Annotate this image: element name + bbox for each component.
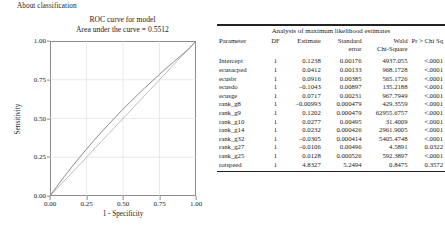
table-row: rank_g910.12020.00047962955.6757<.0001 — [217, 109, 445, 118]
cell-estimate: –0.00993 — [284, 100, 323, 109]
table-header-row-1: Parameter DF Estimate Standard Wald Pr >… — [217, 37, 445, 45]
cell-df: 1 — [267, 135, 284, 144]
cell-pr-chi-sq: <.0001 — [410, 100, 445, 109]
cell-df: 1 — [267, 57, 284, 66]
y-tick-label: 0.00 — [34, 193, 46, 200]
chart-title-block: ROC curve for model Area under the curve… — [0, 15, 215, 34]
table-row: ecusge10.07170.00231967.7949<.0001 — [217, 92, 445, 101]
cell-pr-chi-sq: <.0001 — [410, 66, 445, 75]
cell-std-error: 0.000526 — [323, 152, 364, 161]
y-tick-mark — [47, 79, 51, 80]
cell-std-error: 0.000426 — [323, 126, 364, 135]
x-tick-label: 1.00 — [190, 201, 202, 208]
x-axis-label: 1 - Specificity — [50, 210, 196, 218]
cell-df: 1 — [267, 117, 284, 126]
table-bottom-rule — [217, 171, 445, 173]
cell-wald-chi-square: 4937.055 — [364, 57, 410, 66]
table-row: rank_g1010.02770.0049531.4009<.0001 — [217, 117, 445, 126]
cell-estimate: 0.0232 — [284, 126, 323, 135]
table-row: rotspeed14.83275.24940.84750.3572 — [217, 160, 445, 169]
table-row: rank_g2510.01280.000526592.3897<.0001 — [217, 152, 445, 161]
cell-pr-chi-sq: <.0001 — [410, 126, 445, 135]
table-row: Intercept10.12380.001764937.055<.0001 — [217, 57, 445, 66]
cell-df: 1 — [267, 160, 284, 169]
cell-estimate: –0.0305 — [284, 135, 323, 144]
estimates-table: Analysis of maximum likelihood estimates… — [217, 26, 445, 171]
y-tick-mark — [47, 157, 51, 158]
column-header-wald-line2: Chi-Square — [364, 45, 410, 54]
cell-pr-chi-sq: <.0001 — [410, 109, 445, 118]
y-tick-label: 0.75 — [34, 76, 46, 83]
cell-std-error: 0.00231 — [323, 92, 364, 101]
y-tick-label: 1.00 — [34, 38, 46, 45]
table-row: ecusbr10.09160.00385565.1726<.0001 — [217, 74, 445, 83]
cell-wald-chi-square: 62955.6757 — [364, 109, 410, 118]
cell-pr-chi-sq: <.0001 — [410, 117, 445, 126]
cell-std-error: 0.000479 — [323, 109, 364, 118]
column-header-df: DF — [267, 37, 284, 45]
cell-wald-chi-square: 5405.4748 — [364, 135, 410, 144]
y-tick-label: 0.50 — [34, 115, 46, 122]
cell-wald-chi-square: 565.1726 — [364, 74, 410, 83]
x-tick-label: 0.00 — [44, 201, 56, 208]
cell-parameter: ecusdo — [217, 83, 267, 92]
cell-std-error: 0.00385 — [323, 74, 364, 83]
cell-df: 1 — [267, 126, 284, 135]
cell-wald-chi-square: 31.4009 — [364, 117, 410, 126]
cell-parameter: rank_g32 — [217, 135, 267, 144]
cell-pr-chi-sq: <.0001 — [410, 83, 445, 92]
y-tick-label: 0.25 — [34, 154, 46, 161]
cell-pr-chi-sq: <.0001 — [410, 152, 445, 161]
cell-estimate: 0.0412 — [284, 66, 323, 75]
plot-area: 1.00 0.75 0.50 0.25 0.00 0.00 0.25 0.50 … — [50, 41, 196, 196]
table-body: Intercept10.12380.001764937.055<.0001ecu… — [217, 54, 445, 171]
column-header-estimate: Estimate — [284, 37, 323, 45]
x-tick-label: 0.50 — [117, 201, 129, 208]
cell-parameter: rotspeed — [217, 160, 267, 169]
cell-estimate: 0.1238 — [284, 57, 323, 66]
estimates-table-panel: Analysis of maximum likelihood estimates… — [217, 24, 445, 172]
cell-df: 1 — [267, 109, 284, 118]
cell-std-error: 5.2494 — [323, 160, 364, 169]
cell-parameter: ecusbr — [217, 74, 267, 83]
cell-parameter: rank_g14 — [217, 126, 267, 135]
column-header-pr-chi-sq-line2 — [410, 45, 445, 54]
y-tick-mark — [47, 118, 51, 119]
column-header-wald-line1: Wald — [364, 37, 410, 45]
roc-chart-panel: ROC curve for model Area under the curve… — [0, 10, 215, 230]
cell-wald-chi-square: 4.5891 — [364, 143, 410, 152]
cell-parameter: rank_g25 — [217, 152, 267, 161]
column-header-estimate-line2 — [284, 45, 323, 54]
cell-std-error: 0.00133 — [323, 66, 364, 75]
cell-std-error: 0.000414 — [323, 135, 364, 144]
cell-parameter: Intercept — [217, 57, 267, 66]
table-caption: Analysis of maximum likelihood estimates — [217, 26, 445, 37]
cell-df: 1 — [267, 152, 284, 161]
column-header-df-line2 — [267, 45, 284, 54]
cell-std-error: 0.00495 — [323, 117, 364, 126]
cell-pr-chi-sq: <.0001 — [410, 74, 445, 83]
table-head: Parameter DF Estimate Standard Wald Pr >… — [217, 37, 445, 54]
cell-std-error: 0.00897 — [323, 83, 364, 92]
cell-estimate: 0.0916 — [284, 74, 323, 83]
column-header-standard-error-line2: error — [323, 45, 364, 54]
y-axis-label-holder: Sensitivity — [13, 41, 23, 196]
cell-wald-chi-square: 135.2188 — [364, 83, 410, 92]
chart-subtitle-auc: Area under the curve = 0.5512 — [30, 25, 215, 35]
cell-std-error: 0.000479 — [323, 100, 364, 109]
chart-title: ROC curve for model — [30, 15, 215, 25]
cell-estimate: 0.1202 — [284, 109, 323, 118]
table-row: ecusacped10.04120.00133968.1728<.0001 — [217, 66, 445, 75]
table-row: rank_g271–0.01060.004964.58910.0322 — [217, 143, 445, 152]
cell-pr-chi-sq: <.0001 — [410, 135, 445, 144]
cell-estimate: 4.8327 — [284, 160, 323, 169]
cell-std-error: 0.00496 — [323, 143, 364, 152]
table-header-row-2: error Chi-Square — [217, 45, 445, 54]
cell-pr-chi-sq: 0.0322 — [410, 143, 445, 152]
cell-df: 1 — [267, 66, 284, 75]
cell-df: 1 — [267, 83, 284, 92]
cell-wald-chi-square: 592.3897 — [364, 152, 410, 161]
page-root: About classification ROC curve for model… — [0, 0, 445, 230]
cell-df: 1 — [267, 143, 284, 152]
x-tick-label: 0.25 — [80, 201, 92, 208]
